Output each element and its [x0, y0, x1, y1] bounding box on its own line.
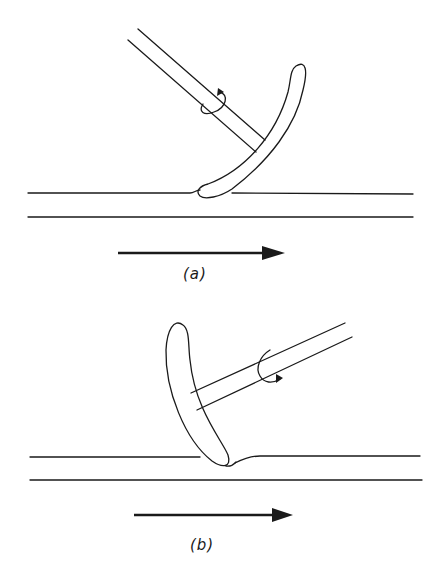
rotation-arrowhead-b [276, 374, 283, 383]
curved-blade-a [198, 64, 306, 197]
rotation-arrowhead-a [217, 88, 224, 96]
diagram-canvas [0, 0, 443, 580]
motion-arrowhead-icon-b [272, 508, 293, 522]
curved-blade-b [166, 323, 229, 466]
motion-arrowhead-icon-a [262, 246, 285, 260]
surface-top-line-b [30, 456, 420, 463]
panel-a [28, 29, 413, 260]
panel-label-a: (a) [183, 265, 207, 283]
panel-label-b: (b) [190, 536, 214, 554]
surface-top-line-a [28, 190, 413, 194]
shaft-b [191, 323, 352, 410]
shaft-a [128, 29, 265, 152]
panel-b [30, 323, 422, 522]
